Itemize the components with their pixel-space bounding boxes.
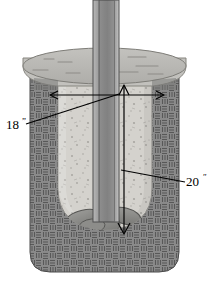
width-dimension-label: 18 xyxy=(6,117,19,132)
depth-dimension-unit: ʺ xyxy=(203,172,207,182)
post xyxy=(93,0,119,222)
post-shadow-face xyxy=(99,0,115,222)
slab-notch-left xyxy=(34,78,58,90)
width-dimension-unit: ” xyxy=(22,116,26,126)
slab-notch-right xyxy=(152,78,176,90)
diagram-canvas: 18 ” 20 ʺ xyxy=(0,0,209,289)
post-footing-diagram: 18 ” 20 ʺ xyxy=(0,0,209,289)
depth-dimension-label: 20 xyxy=(186,174,199,189)
